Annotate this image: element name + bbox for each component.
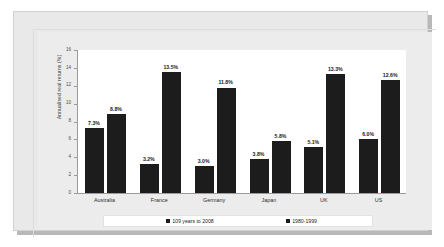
bar-value-label: 8.8%: [99, 107, 133, 112]
x-axis-line: [77, 193, 407, 194]
bar-value-label: 3.8%: [242, 152, 276, 157]
x-axis-category-labels: AustraliaFranceGermanyJapanUKUS: [77, 197, 406, 209]
y-axis-tick-label: 0: [59, 191, 71, 196]
bar-value-label: 5.1%: [296, 140, 330, 145]
bar: [326, 74, 345, 193]
bar: [381, 80, 400, 193]
bar: [217, 88, 236, 193]
x-axis-label: France: [131, 197, 187, 203]
y-axis-tick-label: 8: [59, 119, 71, 124]
y-axis-tick-label: 10: [59, 101, 71, 106]
bar-value-label: 12.6%: [373, 73, 407, 78]
bar-value-label: 6.0%: [351, 132, 385, 137]
y-axis-tick-label: 2: [59, 173, 71, 178]
bar-group: 6.0%12.6%: [351, 50, 406, 193]
y-axis-tick: [74, 193, 77, 194]
bar: [140, 164, 159, 193]
bar: [272, 141, 291, 193]
bar-group: 3.0%11.8%: [187, 50, 242, 193]
bar-value-label: 3.2%: [132, 157, 166, 162]
bar-group: 7.3%8.8%: [77, 50, 132, 193]
bar-value-label: 11.8%: [209, 80, 243, 85]
bar-group: 3.2%13.5%: [132, 50, 187, 193]
bar-value-label: 5.8%: [264, 134, 298, 139]
chart-legend: 109 years to 2008 1980-1999: [103, 215, 373, 227]
legend-entry-0: 109 years to 2008: [166, 218, 214, 224]
bar-group: 5.1%13.3%: [296, 50, 351, 193]
bar: [107, 114, 126, 193]
legend-label-0: 109 years to 2008: [172, 218, 214, 224]
bar: [250, 159, 269, 193]
y-axis-tick-label: 6: [59, 137, 71, 142]
legend-label-1: 1980-1999: [292, 218, 317, 224]
y-axis-tick-label: 14: [59, 66, 71, 71]
bar-value-label: 3.0%: [187, 159, 221, 164]
bars-layer: 7.3%8.8%3.2%13.5%3.0%11.8%3.8%5.8%5.1%13…: [77, 50, 406, 193]
bar: [304, 147, 323, 193]
bar: [359, 139, 378, 193]
x-axis-label: Germany: [186, 197, 242, 203]
bar-value-label: 7.3%: [77, 121, 111, 126]
y-axis-tick-label: 12: [59, 83, 71, 88]
bar: [85, 128, 104, 193]
bar-value-label: 13.5%: [154, 65, 188, 70]
chart-frame: Annualised real returns (%) 161412108642…: [38, 32, 432, 230]
legend-entry-1: 1980-1999: [286, 218, 317, 224]
bar: [195, 166, 214, 193]
bar-group: 3.8%5.8%: [242, 50, 297, 193]
x-axis-label: Australia: [76, 197, 132, 203]
bar-value-label: 13.3%: [318, 67, 352, 72]
legend-swatch-icon: [286, 219, 290, 223]
legend-swatch-icon: [166, 219, 170, 223]
bar: [162, 72, 181, 193]
x-axis-label: US: [351, 197, 407, 203]
y-axis-tick-label: 4: [59, 155, 71, 160]
chart-page: Annualised real returns (%) 161412108642…: [0, 0, 444, 247]
x-axis-label: Japan: [241, 197, 297, 203]
y-axis-tick-label: 16: [59, 48, 71, 53]
chart-card: Annualised real returns (%) 161412108642…: [13, 11, 428, 231]
x-axis-label: UK: [296, 197, 352, 203]
